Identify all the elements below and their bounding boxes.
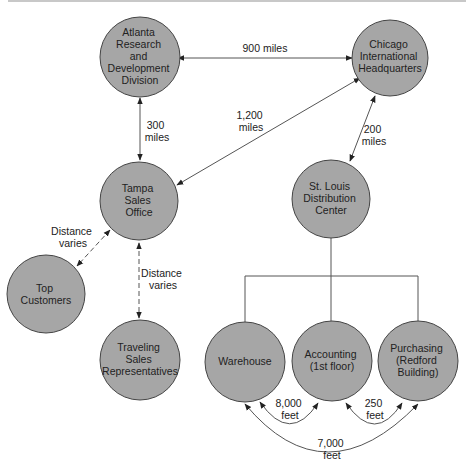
label-warehouse-accounting: 8,000 feet bbox=[275, 397, 304, 421]
node-traveling-reps: Traveling Sales Representatives bbox=[100, 320, 180, 400]
node-stlouis: St. Louis Distribution Center bbox=[292, 160, 370, 238]
node-chicago: Chicago International Headquarters bbox=[352, 20, 428, 96]
label-atlanta-tampa: 300 miles bbox=[145, 119, 170, 143]
node-atlanta: Atlanta Research and Development Divisio… bbox=[100, 17, 180, 97]
node-label: Tampa Sales Office bbox=[122, 182, 156, 218]
org-connector bbox=[245, 238, 418, 322]
node-purchasing: Purchasing (Redford Building) bbox=[378, 321, 458, 401]
label-tampa-reps: Distance varies bbox=[141, 267, 185, 291]
node-accounting: Accounting (1st floor) bbox=[292, 321, 372, 401]
node-label: Accounting (1st floor) bbox=[305, 348, 360, 372]
label-warehouse-purchasing: 7,000 feet bbox=[317, 437, 346, 461]
label-tampa-customers: Distance varies bbox=[51, 225, 95, 249]
label-accounting-purchasing: 250 feet bbox=[365, 397, 385, 421]
label-chicago-tampa: 1,200 miles bbox=[236, 109, 265, 133]
node-tampa: Tampa Sales Office bbox=[100, 162, 178, 240]
node-top-customers: Top Customers bbox=[7, 255, 85, 333]
label-atlanta-chicago: 900 miles bbox=[243, 42, 288, 54]
network-diagram: Atlanta Research and Development Divisio… bbox=[0, 0, 467, 475]
label-chicago-stlouis: 200 miles bbox=[362, 123, 387, 147]
node-label: Purchasing (Redford Building) bbox=[390, 342, 445, 378]
node-warehouse: Warehouse bbox=[205, 322, 285, 402]
node-label: Warehouse bbox=[218, 355, 271, 367]
